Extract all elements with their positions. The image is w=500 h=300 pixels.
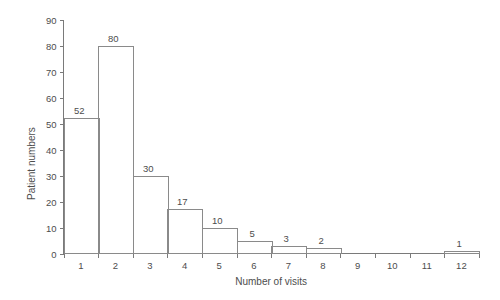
x-tick-label: 2: [113, 260, 118, 271]
x-axis-title: Number of visits: [0, 276, 479, 287]
bar-value-label: 10: [212, 215, 223, 226]
bar-rect: [272, 247, 307, 254]
y-tick-label: 90: [46, 15, 57, 26]
x-tick-label: 11: [422, 260, 432, 271]
y-tick-label: 30: [46, 171, 57, 182]
y-tick-label: 10: [46, 223, 57, 234]
y-tick-label: 50: [46, 119, 57, 130]
y-tick-label: 20: [46, 197, 57, 208]
bar-value-label: 17: [177, 196, 188, 207]
bar-rect: [134, 177, 169, 254]
y-tick-label: 70: [46, 67, 57, 78]
bar-rect: [307, 249, 342, 254]
bar-rect: [238, 242, 273, 254]
x-tick-label: 7: [286, 260, 291, 271]
bar-rect: [203, 229, 238, 254]
bar-value-label: 80: [108, 33, 119, 44]
y-axis-title: Patient numbers: [26, 127, 37, 200]
x-tick-label: 10: [387, 260, 398, 271]
x-tick-label: 8: [320, 260, 325, 271]
chart-canvas: 0102030405060708090123456789101112528030…: [0, 0, 500, 300]
bar-value-label: 3: [284, 233, 289, 244]
x-tick-label: 4: [182, 260, 187, 271]
bar-value-label: 1: [457, 238, 462, 249]
bar-value-label: 2: [319, 235, 324, 246]
bar-rect: [168, 210, 203, 254]
bar-rect: [99, 47, 134, 254]
x-tick-label: 12: [456, 260, 467, 271]
x-tick-label: 9: [355, 260, 360, 271]
bar-rect: [65, 119, 100, 254]
x-tick-label: 3: [147, 260, 152, 271]
y-tick-label: 40: [46, 145, 57, 156]
bar-value-label: 52: [74, 105, 85, 116]
y-tick-label: 0: [51, 249, 56, 260]
bar-chart-figure: 0102030405060708090123456789101112528030…: [0, 0, 500, 300]
x-tick-label: 6: [251, 260, 256, 271]
bar-rect: [445, 252, 480, 254]
y-tick-label: 60: [46, 93, 57, 104]
bar-value-label: 30: [143, 163, 154, 174]
bar-value-label: 5: [250, 228, 255, 239]
y-tick-label: 80: [46, 41, 57, 52]
x-tick-label: 1: [78, 260, 83, 271]
x-tick-label: 5: [217, 260, 222, 271]
